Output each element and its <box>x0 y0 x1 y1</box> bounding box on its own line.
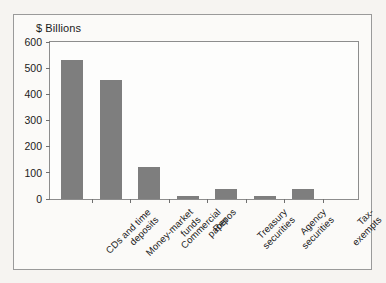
x-axis-label: Treasury securities <box>253 207 297 251</box>
x-axis-label: Agency securities <box>292 207 336 251</box>
y-axis-tick-label: 600 <box>24 37 42 48</box>
y-axis-tick-label: 500 <box>24 63 42 74</box>
bar <box>61 60 83 199</box>
y-axis-tick-label: 300 <box>24 115 42 126</box>
y-axis-tick-mark <box>46 94 50 95</box>
bar <box>177 196 199 199</box>
figure-frame: $ Billions 0100200300400500600 CDs and t… <box>13 14 372 270</box>
bar <box>292 189 314 199</box>
y-axis-tick-mark <box>46 199 50 200</box>
y-axis-tick-label: 100 <box>24 168 42 179</box>
x-axis-tick-mark <box>130 199 131 203</box>
y-axis-tick-mark <box>46 146 50 147</box>
bar <box>138 167 160 199</box>
x-axis-tick-mark <box>92 199 93 203</box>
y-axis-tick-label: 0 <box>36 194 42 205</box>
bar <box>254 196 276 199</box>
plot-area: 0100200300400500600 <box>49 41 359 200</box>
y-axis-tick-mark <box>46 120 50 121</box>
y-axis-tick-label: 400 <box>24 89 42 100</box>
x-axis-tick-mark <box>284 199 285 203</box>
x-axis-tick-mark <box>323 199 324 203</box>
bar <box>215 189 237 199</box>
x-axis-tick-mark <box>169 199 170 203</box>
x-axis-tick-mark <box>246 199 247 203</box>
y-axis-tick-label: 200 <box>24 141 42 152</box>
x-axis-tick-mark <box>207 199 208 203</box>
y-axis-tick-mark <box>46 68 50 69</box>
x-axis-label: Tax-exempts <box>333 207 384 258</box>
x-axis-labels: CDs and time depositsMoney-market fundsC… <box>49 205 369 269</box>
y-axis-title: $ Billions <box>36 22 81 34</box>
y-axis-tick-mark <box>46 172 50 173</box>
bar <box>100 80 122 199</box>
y-axis-tick-mark <box>46 42 50 43</box>
